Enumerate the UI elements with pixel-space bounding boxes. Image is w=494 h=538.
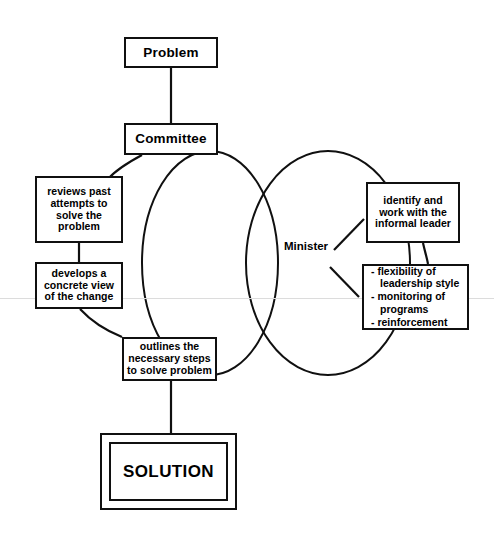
list-item: flexibility of leadership style: [371, 265, 461, 289]
list-item: reinforcement: [371, 316, 461, 328]
node-leadership-practices[interactable]: flexibility of leadership style monitori…: [362, 264, 469, 330]
connector-identify-practices: [423, 243, 428, 264]
solution-inner-frame: SOLUTION: [109, 442, 228, 501]
leadership-practices-list: flexibility of leadership style monitori…: [371, 265, 461, 329]
diagram-canvas: Problem Committee reviews past attempts …: [0, 0, 494, 538]
connector-minister-identify: [334, 219, 364, 250]
node-reviews-label: reviews past attempts to solve the probl…: [40, 186, 118, 233]
connector-minister-practices: [330, 267, 359, 297]
node-committee-label: Committee: [135, 131, 207, 146]
node-problem[interactable]: Problem: [124, 37, 218, 68]
node-committee[interactable]: Committee: [124, 123, 218, 155]
label-minister: Minister: [284, 240, 328, 252]
connector-develops-outlines: [80, 309, 122, 337]
node-identify-label: identify and work with the informal lead…: [371, 195, 455, 230]
node-problem-label: Problem: [143, 45, 198, 60]
node-develops-label: develops a concrete view of the change: [40, 268, 118, 303]
node-outlines-necessary-steps[interactable]: outlines the necessary steps to solve pr…: [122, 337, 217, 381]
node-reviews-past-attempts[interactable]: reviews past attempts to solve the probl…: [35, 176, 123, 243]
list-item: monitoring of programs: [371, 290, 461, 314]
node-identify-informal-leader[interactable]: identify and work with the informal lead…: [366, 182, 460, 243]
node-solution-label: SOLUTION: [123, 462, 214, 482]
node-develops-concrete-view[interactable]: develops a concrete view of the change: [35, 262, 123, 309]
node-solution[interactable]: SOLUTION: [100, 433, 237, 510]
node-outlines-label: outlines the necessary steps to solve pr…: [127, 341, 212, 376]
